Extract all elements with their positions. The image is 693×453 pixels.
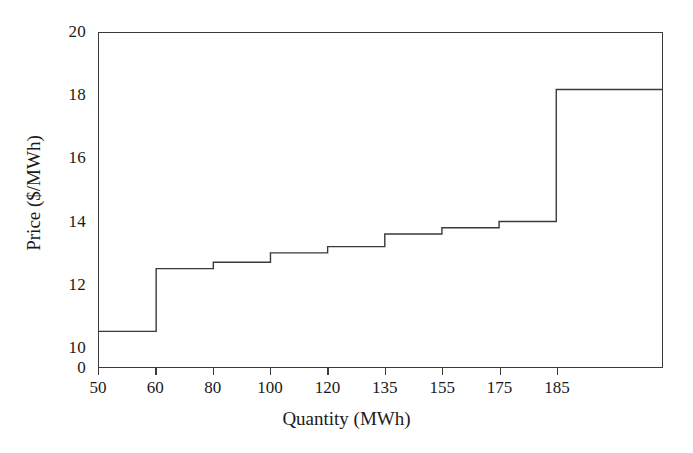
x-axis-tick-label: 80 [204,378,221,398]
y-axis-tick-label: 10 [52,338,86,358]
x-axis-tick-label: 60 [147,378,164,398]
x-axis-tick-label: 135 [372,378,398,398]
x-axis-tick-label: 155 [429,378,455,398]
x-axis-tick-mark [442,368,443,375]
y-axis-tick-label: 18 [52,85,86,105]
x-axis-tick-mark [213,368,214,375]
y-axis-tick-label: 14 [52,212,86,232]
plot-area [98,32,663,368]
x-axis-tick-label: 100 [257,378,283,398]
y-axis-title: Price ($/MWh) [23,73,45,313]
x-axis-tick-mark [270,368,271,375]
x-axis-tick-label: 175 [487,378,513,398]
x-axis-tick-mark [500,368,501,375]
x-axis-tick-mark [327,368,328,375]
x-axis-tick-label: 185 [544,378,570,398]
step-curve [99,33,662,367]
y-axis-tick-label: 12 [52,275,86,295]
y-axis-tick-label: 16 [52,148,86,168]
y-axis-tick-label: 20 [52,22,86,42]
y-axis-tick-label: 0 [52,358,86,378]
x-axis-tick-label: 50 [90,378,107,398]
chart-figure: Price ($/MWh) 0101214161820 506080100120… [0,0,693,453]
x-axis-title: Quantity (MWh) [0,408,693,430]
x-axis-tick-mark [155,368,156,375]
x-axis-tick-mark [557,368,558,375]
x-axis-tick-mark [98,368,99,375]
x-axis-tick-mark [385,368,386,375]
x-axis-tick-label: 120 [315,378,341,398]
